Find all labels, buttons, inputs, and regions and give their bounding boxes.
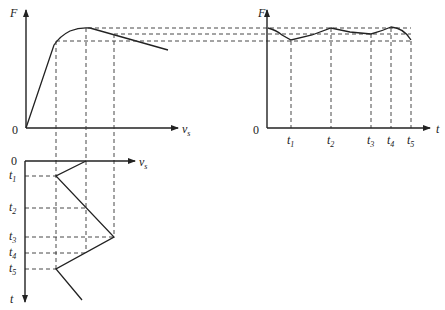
tick-t5: t5 xyxy=(9,261,16,277)
force-time-curve xyxy=(268,27,411,40)
t-axis-label: t xyxy=(10,292,14,306)
tick-t4: t4 xyxy=(387,133,394,149)
origin-label: 0 xyxy=(11,154,17,168)
tick-t1: t1 xyxy=(9,168,16,184)
force-velocity-plot: F 0 vs xyxy=(9,6,190,138)
velocity-time-plot: 0 vs t t1 t2 t3 t4 t5 xyxy=(9,154,147,306)
projection-dashes xyxy=(25,28,411,269)
tick-t3: t3 xyxy=(367,133,374,149)
vs-axis-label: vs xyxy=(182,122,190,138)
tick-t2: t2 xyxy=(327,133,334,149)
tick-t1: t1 xyxy=(287,133,294,149)
f-axis-label: F xyxy=(257,6,266,20)
origin-label: 0 xyxy=(12,123,18,137)
tick-t5: t5 xyxy=(407,133,414,149)
force-time-plot: F 0 t t1 t2 t3 t4 t5 xyxy=(253,6,440,149)
tick-t3: t3 xyxy=(9,229,16,245)
origin-label: 0 xyxy=(253,123,259,137)
force-velocity-time-diagram: F 0 vs F 0 t t1 t2 t3 t4 t5 xyxy=(0,0,445,310)
tick-t4: t4 xyxy=(9,245,16,261)
velocity-time-curve xyxy=(56,161,114,300)
t-axis-label: t xyxy=(436,122,440,136)
tick-t2: t2 xyxy=(9,200,16,216)
force-velocity-curve xyxy=(26,28,168,128)
vs-axis-label: vs xyxy=(139,155,147,171)
f-axis-label: F xyxy=(9,6,18,20)
